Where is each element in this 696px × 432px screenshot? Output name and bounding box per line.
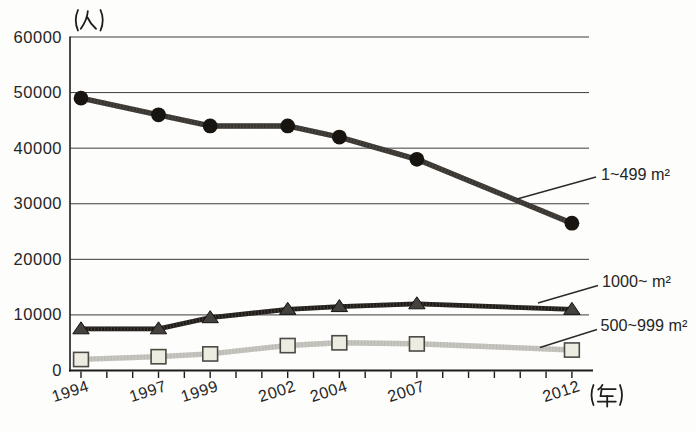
data-point-circle bbox=[409, 152, 424, 167]
series-callout: 1~499 m² bbox=[517, 165, 670, 200]
y-axis-tick-label: 30000 bbox=[14, 194, 62, 212]
data-point-circle bbox=[151, 107, 166, 122]
data-point-square bbox=[151, 350, 166, 364]
y-axis-tick-label: 0 bbox=[52, 361, 62, 379]
callout-line bbox=[517, 177, 596, 199]
x-axis-tick-label: 1999 bbox=[178, 376, 220, 405]
data-point-square bbox=[280, 338, 295, 352]
nen-kanji-icon bbox=[598, 385, 616, 407]
data-point-circle bbox=[203, 119, 218, 134]
data-point-circle bbox=[74, 91, 89, 106]
y-axis-unit-label bbox=[76, 10, 103, 31]
data-point-square bbox=[409, 337, 424, 351]
open-paren-glyph bbox=[592, 385, 594, 405]
series-callout: 1000~ m² bbox=[538, 272, 671, 304]
chart-figure: 0100002000030000400005000060000199419971… bbox=[0, 0, 696, 432]
y-axis-tick-label: 50000 bbox=[14, 83, 62, 101]
data-point-square bbox=[203, 347, 218, 361]
series-callout: 500~999 m² bbox=[540, 316, 688, 348]
nen-kanji-stroke bbox=[601, 389, 602, 396]
y-axis-tick-label: 40000 bbox=[14, 139, 62, 157]
data-point-square bbox=[74, 352, 89, 366]
x-axis-tick-label: 1994 bbox=[49, 376, 91, 405]
x-axis-tick-label: 2002 bbox=[256, 376, 298, 405]
open-paren-glyph bbox=[76, 10, 78, 31]
x-axis-tick-label: 2004 bbox=[308, 376, 350, 405]
series-label: 1~499 m² bbox=[601, 165, 670, 183]
y-axis-tick-label: 60000 bbox=[14, 28, 62, 46]
line-chart: 0100002000030000400005000060000199419971… bbox=[0, 0, 696, 432]
callout-line bbox=[538, 286, 598, 304]
data-point-square bbox=[332, 336, 347, 350]
data-point-circle bbox=[332, 130, 347, 145]
x-axis-unit-label bbox=[592, 385, 623, 407]
series-1-499 bbox=[74, 91, 580, 231]
x-axis-tick-label: 1997 bbox=[127, 376, 169, 405]
series-500-999 bbox=[74, 336, 580, 367]
x-axis-tick-label: 2007 bbox=[385, 376, 427, 405]
y-axis-tick-label: 10000 bbox=[14, 305, 62, 323]
data-point-circle bbox=[565, 216, 580, 231]
y-axis-tick-label: 20000 bbox=[14, 250, 62, 268]
close-paren-glyph bbox=[101, 10, 103, 31]
close-paren-glyph bbox=[620, 385, 622, 405]
data-point-circle bbox=[280, 119, 295, 134]
hito-kanji-icon bbox=[88, 18, 97, 29]
data-point-square bbox=[565, 343, 580, 357]
series-label: 500~999 m² bbox=[601, 316, 688, 334]
series-label: 1000~ m² bbox=[602, 272, 671, 290]
x-axis-tick-label: 2012 bbox=[540, 376, 582, 405]
hito-kanji-icon bbox=[81, 11, 88, 29]
